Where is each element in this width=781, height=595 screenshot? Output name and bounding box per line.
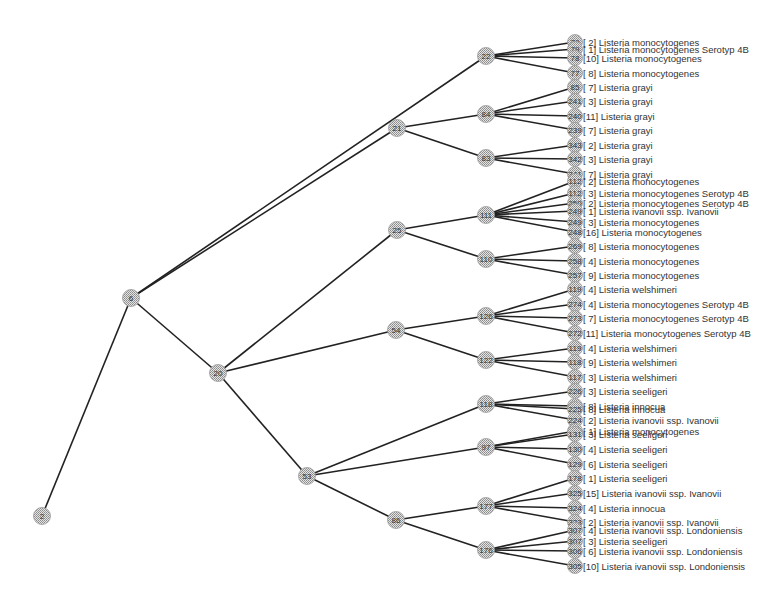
leaf-label: [ 7] Listeria grayi [583,125,653,136]
leaf-node[interactable]: 274 [568,297,583,312]
leaf-node-id: 343 [568,141,582,150]
leaf-node[interactable]: 258 [568,254,583,269]
tree-edge [131,56,486,298]
leaf-node[interactable]: 240 [568,109,583,124]
internal-node-id: 118 [480,400,493,409]
internal-node[interactable]: 6 [123,290,140,307]
leaf-label: [11] Listeria grayi [583,111,655,122]
leaf-node[interactable]: 130 [568,442,583,457]
leaf-label: [ 4] Listeria welshimeri [583,284,677,295]
leaf-node[interactable]: 273 [568,311,583,326]
internal-node-id: 20 [214,369,223,378]
leaf-node-id: 272 [568,329,582,338]
internal-node[interactable]: 126 [478,308,495,325]
internal-node[interactable]: 83 [478,150,495,167]
leaf-node-id: 248 [568,228,582,237]
tree-edge [396,330,486,360]
leaf-edge [486,181,575,215]
leaf-node[interactable]: 306 [568,544,583,559]
leaf-node[interactable]: 117 [568,370,583,385]
leaf-node[interactable]: 119 [568,341,583,356]
internal-node[interactable]: 177 [478,498,495,515]
leaf-label: [ 8] Listeria monocytogenes [583,68,699,79]
tree-edge [218,373,307,476]
leaf-label: [ 2] Listeria ivanovii ssp. Ivanovii [583,415,719,426]
internal-node[interactable]: 2 [34,508,51,525]
leaf-node[interactable]: 131 [568,427,583,442]
leaf-node-id: 85 [571,83,580,92]
leaf-node-id: 239 [568,126,582,135]
leaf-node[interactable]: 248 [568,225,583,240]
internal-node-id: 177 [479,502,493,511]
leaf-edge [486,49,575,56]
internal-node[interactable]: 22 [478,48,495,65]
leaf-node[interactable]: 85 [568,80,583,95]
leaf-node-id: 226 [568,387,582,396]
internal-node[interactable]: 54 [388,322,405,339]
leaf-edge [486,215,575,222]
internal-node[interactable]: 97 [478,439,495,456]
internal-node[interactable]: 176 [478,542,495,559]
leaf-edge [486,391,575,404]
tree-edge [396,316,486,330]
leaf-node[interactable]: 78 [568,51,583,66]
leaf-node[interactable]: 269 [568,239,583,254]
leaf-node[interactable]: 324 [568,501,583,516]
leaf-node[interactable]: 343 [568,138,583,153]
tree-edge [396,506,486,520]
internal-node[interactable]: 21 [389,120,406,137]
leaf-label: [ 7] Listeria grayi [583,82,653,93]
leaf-edge [486,101,575,114]
leaf-node[interactable]: 118 [568,355,583,370]
internal-node[interactable]: 84 [478,106,495,123]
leaf-node[interactable]: 325 [568,486,583,501]
leaf-node[interactable]: 342 [568,152,583,167]
leaf-label: [ 3] Listeria seeligeri [583,386,667,397]
leaf-label: [ 1] Listeria seeligeri [583,473,667,484]
leaf-node[interactable]: 129 [568,457,583,472]
leaf-node[interactable]: 241 [568,94,583,109]
internal-node[interactable]: 53 [299,468,316,485]
leaf-node-id: 78 [571,54,580,63]
tree-edge [397,215,486,230]
internal-node[interactable]: 118 [478,396,495,413]
internal-node-id: 21 [393,124,402,133]
leaf-node[interactable]: 239 [568,123,583,138]
leaf-node-id: 112 [569,177,582,186]
internal-node[interactable]: 122 [478,352,495,369]
phylogenetic-tree: 7979787785241240239343342341112112250249… [0,0,781,595]
internal-node[interactable]: 86 [388,512,405,529]
leaf-label: [ 4] Listeria monocytogenes [583,256,699,267]
leaf-edge [486,316,575,333]
leaf-edge [486,478,575,506]
leaf-label: [ 3] Listeria welshimeri [583,372,677,383]
leaf-node[interactable]: 119 [568,282,583,297]
leaf-label: [ 4] Listeria ivanovii ssp. Londoniensis [583,525,743,536]
internal-node-id: 22 [482,52,491,61]
leaf-node[interactable]: 305 [568,559,583,574]
leaf-node-id: 118 [569,358,582,367]
internal-node[interactable]: 25 [389,222,406,239]
leaf-label: [ 9] Listeria welshimeri [583,357,677,368]
internal-node[interactable]: 20 [210,365,227,382]
leaf-edge [486,360,575,377]
leaf-node-id: 342 [568,155,582,164]
internal-node[interactable]: 110 [478,251,495,268]
leaf-node-id: 119 [569,285,582,294]
leaf-node[interactable]: 226 [568,384,583,399]
leaf-label: [ 3] Listeria seeligeri [583,429,667,440]
leaf-node[interactable]: 257 [568,268,583,283]
leaf-node-id: 178 [568,474,582,483]
leaf-edge [486,158,575,159]
leaf-node[interactable]: 77 [568,66,583,81]
leaf-edge [486,360,575,362]
leaf-node[interactable]: 178 [568,471,583,486]
leaf-node[interactable]: 272 [568,326,583,341]
internal-node[interactable]: 111 [478,207,495,224]
leaf-label: [ 3] Listeria grayi [583,96,653,107]
leaf-label: [ 9] Listeria monocytogenes [583,270,699,281]
leaf-node-id: 325 [568,489,582,498]
leaf-edge [486,348,575,360]
internal-node-id: 54 [392,326,401,335]
leaf-label: [ 4] Listeria monocytogenes Serotyp 4B [583,299,749,310]
